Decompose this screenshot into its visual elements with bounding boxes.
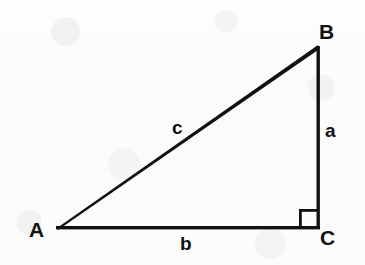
- side-label-c: c: [172, 118, 183, 137]
- vertex-label-b: B: [319, 21, 334, 42]
- right-triangle-figure: A B C a b c: [0, 0, 365, 265]
- side-c-hypotenuse-line: [57, 45, 318, 230]
- side-label-a: a: [325, 121, 336, 140]
- right-angle-marker-icon: [299, 209, 317, 228]
- vertex-label-c: C: [320, 227, 335, 248]
- side-a-vertical-line: [317, 46, 320, 229]
- vertex-label-a: A: [29, 219, 44, 240]
- side-b-horizontal-line: [56, 226, 320, 229]
- side-label-b: b: [180, 234, 192, 253]
